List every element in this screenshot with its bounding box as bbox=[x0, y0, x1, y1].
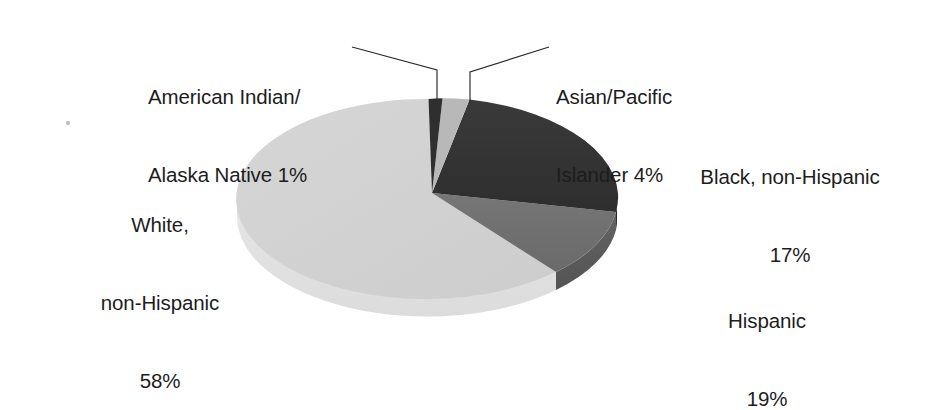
leader-line-american-indian-alaska-native bbox=[352, 47, 437, 101]
pie-label-line-1: Black, non-Hispanic bbox=[672, 164, 908, 190]
pie-label-line-3: 58% bbox=[70, 368, 250, 394]
leader-lines bbox=[352, 47, 549, 103]
pie-label-hispanic: Hispanic 19% bbox=[672, 256, 862, 410]
pie-label-line-2: non-Hispanic bbox=[70, 290, 250, 316]
pie-label-asian-pacific-islander: Asian/Pacific Islander 4% bbox=[556, 32, 672, 240]
pie-label-line-1: Asian/Pacific bbox=[556, 84, 672, 110]
pie-label-line-2: 19% bbox=[672, 386, 862, 410]
pie-label-line-1: Hispanic bbox=[672, 308, 862, 334]
pie-label-line-1: White, bbox=[70, 212, 250, 238]
scan-speck-artifact bbox=[66, 121, 70, 125]
leader-line-asian-pacific-islander bbox=[470, 47, 549, 103]
pie-label-line-1: American Indian/ bbox=[148, 84, 307, 110]
pie-label-line-2: Islander 4% bbox=[556, 162, 672, 188]
pie-label-white-non-hispanic: White, non-Hispanic 58% bbox=[70, 160, 250, 410]
